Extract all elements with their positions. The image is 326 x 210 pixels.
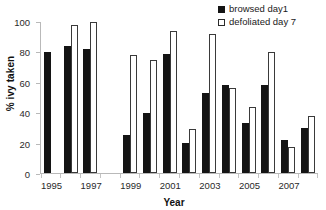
x-axis-tick-label: 2005 — [239, 180, 260, 194]
x-axis-tick-label — [260, 180, 278, 194]
bar-defoliated-day7 — [229, 88, 236, 173]
bar-defoliated-day7 — [90, 22, 97, 173]
x-axis-tick-label: 1995 — [41, 180, 62, 194]
bar-defoliated-day7 — [189, 129, 196, 173]
bar-defoliated-day7 — [308, 116, 315, 173]
x-axis-tick-label — [181, 180, 199, 194]
legend-item-browsed-day1: browsed day1 — [218, 4, 296, 14]
y-axis-title: % ivy taken — [5, 51, 16, 117]
bar-group — [259, 22, 279, 173]
bar-group — [100, 22, 120, 173]
y-axis-tick: 0 — [36, 174, 40, 175]
bar-group — [120, 22, 140, 173]
x-axis-tick — [259, 174, 279, 178]
bar-browsed-day1 — [182, 143, 189, 173]
x-axis-tick — [81, 174, 101, 178]
bar-group — [160, 22, 180, 173]
bar-browsed-day1 — [163, 54, 170, 173]
chart-legend: browsed day1 defoliated day 7 — [218, 4, 296, 27]
bar-defoliated-day7 — [268, 52, 275, 173]
bar-group — [179, 22, 199, 173]
plot-area: 020406080100 199519971999200120032005200… — [40, 22, 318, 174]
x-axis-tick — [179, 174, 199, 178]
y-axis-tick: 100 — [36, 22, 40, 23]
filled-square-icon — [218, 6, 225, 13]
bar-group — [278, 22, 298, 173]
bar-group — [41, 22, 61, 173]
bar-browsed-day1 — [123, 135, 130, 173]
x-axis-tick-label: 2003 — [199, 180, 220, 194]
x-axis-tick — [160, 174, 180, 178]
x-axis-tick-label: 2001 — [160, 180, 181, 194]
legend-item-defoliated-day7: defoliated day 7 — [218, 17, 296, 27]
bar-group — [81, 22, 101, 173]
x-axis-tick-label: 2007 — [278, 180, 299, 194]
y-axis-tick: 80 — [36, 52, 40, 53]
bar-defoliated-day7 — [170, 31, 177, 173]
x-axis-tick-label — [220, 180, 238, 194]
bar-browsed-day1 — [83, 49, 90, 173]
bar-browsed-day1 — [281, 140, 288, 173]
x-axis-tick — [140, 174, 160, 178]
x-axis-tick — [100, 174, 120, 178]
legend-label: browsed day1 — [229, 4, 288, 14]
y-axis-tick: 60 — [36, 83, 40, 84]
x-axis-tick-labels: 1995199719992001200320052007 — [41, 180, 318, 194]
bar-defoliated-day7 — [249, 107, 256, 173]
bar-browsed-day1 — [261, 85, 268, 173]
bar-chart: browsed day1 defoliated day 7 % ivy take… — [0, 0, 326, 210]
y-axis-tick-label: 60 — [19, 77, 30, 88]
y-axis-tick-label: 20 — [19, 138, 30, 149]
bar-browsed-day1 — [301, 128, 308, 173]
bar-browsed-day1 — [222, 85, 229, 173]
bar-browsed-day1 — [242, 123, 249, 173]
x-axis-ticks — [41, 174, 318, 178]
x-axis-tick-label: 1997 — [81, 180, 102, 194]
bar-series-container — [41, 22, 318, 173]
bar-defoliated-day7 — [209, 34, 216, 173]
y-axis-tick-label: 40 — [19, 108, 30, 119]
hollow-square-icon — [218, 19, 225, 26]
bar-defoliated-day7 — [71, 25, 78, 173]
x-axis-tick — [41, 174, 61, 178]
bar-group — [298, 22, 318, 173]
bar-defoliated-day7 — [288, 147, 295, 173]
bar-group — [140, 22, 160, 173]
x-axis-tick-label — [141, 180, 159, 194]
legend-label: defoliated day 7 — [229, 17, 296, 27]
x-axis-tick-label — [102, 180, 120, 194]
y-axis-tick-label: 100 — [14, 17, 30, 28]
bar-defoliated-day7 — [150, 60, 157, 173]
x-axis-tick — [278, 174, 298, 178]
x-axis-title: Year — [0, 197, 326, 208]
bar-group — [61, 22, 81, 173]
x-axis-tick-label — [300, 180, 318, 194]
x-axis-tick — [120, 174, 140, 178]
y-axis-tick: 40 — [36, 113, 40, 114]
bar-browsed-day1 — [143, 113, 150, 173]
x-axis-tick — [199, 174, 219, 178]
bar-group — [199, 22, 219, 173]
bar-browsed-day1 — [202, 93, 209, 173]
bar-group — [239, 22, 259, 173]
bar-browsed-day1 — [64, 46, 71, 173]
x-axis-tick — [219, 174, 239, 178]
bar-browsed-day1 — [44, 52, 51, 173]
bar-defoliated-day7 — [130, 55, 137, 173]
y-axis-tick-label: 80 — [19, 47, 30, 58]
y-axis-tick-label: 0 — [25, 169, 30, 180]
bar-group — [219, 22, 239, 173]
x-axis-tick-label: 1999 — [120, 180, 141, 194]
x-axis-tick — [298, 174, 318, 178]
x-axis-tick-label — [62, 180, 80, 194]
y-axis-tick: 20 — [36, 144, 40, 145]
x-axis-tick — [61, 174, 81, 178]
x-axis-tick — [239, 174, 259, 178]
